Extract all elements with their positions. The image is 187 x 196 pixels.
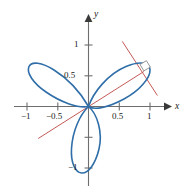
axes-group bbox=[14, 14, 172, 186]
normal-line bbox=[38, 72, 144, 139]
x-axis-arrow-icon bbox=[164, 103, 172, 111]
rose-petal-upper-left bbox=[28, 63, 88, 107]
plot-canvas bbox=[0, 0, 187, 196]
y-tick-label-1: 1 bbox=[74, 40, 79, 49]
x-tick-label--1: −1 bbox=[21, 112, 31, 121]
right-angle-marker-icon bbox=[140, 61, 150, 71]
x-tick-label--0.5: −0.5 bbox=[46, 112, 62, 121]
x-axis-label: x bbox=[175, 102, 179, 112]
y-tick-label-0.5: 0.5 bbox=[64, 71, 75, 80]
y-tick-label--1: −1 bbox=[68, 163, 78, 172]
y-axis-label: y bbox=[94, 10, 98, 20]
x-tick-label-1: 1 bbox=[147, 112, 152, 121]
y-axis-arrow-icon bbox=[85, 14, 93, 22]
x-tick-label-0.5: 0.5 bbox=[112, 112, 123, 121]
polar-rose-figure: −1 −0.5 0.5 1 1 0.5 −1 x y bbox=[0, 0, 187, 196]
